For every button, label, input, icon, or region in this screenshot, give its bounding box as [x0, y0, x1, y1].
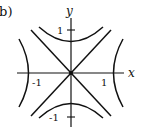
x-tick-label-1: 1 [101, 77, 107, 88]
x-axis-label: x [128, 66, 135, 80]
y-tick-label-neg1: -1 [49, 112, 59, 123]
panel-label: (b) [0, 4, 12, 19]
y-tick-label-1: 1 [57, 25, 63, 36]
hyperbola-diagram: (b) x y 1 -1 -1 1 [0, 0, 143, 132]
x-tick-label-neg1: -1 [32, 77, 42, 88]
y-axis-label: y [65, 4, 73, 18]
origin-point [69, 71, 73, 75]
